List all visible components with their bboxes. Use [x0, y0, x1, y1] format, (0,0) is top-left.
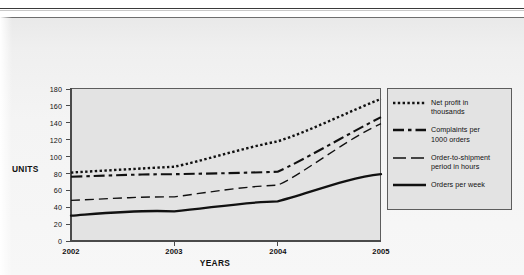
x-tick-label-2003: 2003 [154, 247, 194, 256]
y-axis-title: UNITS [12, 164, 39, 174]
y-tick-label-160: 160 [40, 102, 62, 111]
y-tick-label-80: 80 [40, 170, 62, 179]
legend-label-complaints: Complaints per 1000 orders [431, 125, 480, 143]
y-tick-label-60: 60 [40, 186, 62, 195]
legend-label-net-profit-line2: thousands [431, 107, 465, 116]
x-axis-title: YEARS [0, 258, 430, 268]
series-net-profit [71, 99, 381, 173]
y-tick-label-100: 100 [40, 153, 62, 162]
series-orders-per-week [71, 174, 381, 215]
legend-label-order-to-shipment-line1: Order-to-shipment [431, 153, 490, 162]
legend-label-net-profit: Net profit in thousands [431, 98, 468, 116]
line-chart-figure: 180 160 140 120 100 80 60 40 20 0 UNITS … [0, 0, 524, 275]
legend-swatch-dashed-icon [393, 153, 426, 165]
y-tick-label-40: 40 [40, 203, 62, 212]
series-complaints [71, 117, 381, 177]
legend-item-orders-per-week: Orders per week [393, 180, 507, 192]
x-tick-label-2002: 2002 [51, 247, 91, 256]
series-order-to-shipment [71, 124, 381, 201]
y-tick-label-20: 20 [40, 220, 62, 229]
legend-label-order-to-shipment-line2: period in hours [431, 162, 479, 171]
legend-label-order-to-shipment: Order-to-shipment period in hours [431, 153, 490, 171]
legend-swatch-dotted-icon [393, 98, 426, 110]
chart-legend: Net profit in thousands Complaints per 1… [387, 88, 512, 210]
legend-item-complaints: Complaints per 1000 orders [393, 125, 507, 143]
legend-label-orders-per-week: Orders per week [431, 180, 485, 189]
legend-label-complaints-line1: Complaints per [431, 125, 480, 134]
legend-swatch-solid-icon [393, 180, 426, 192]
y-tick-label-0: 0 [40, 237, 62, 246]
legend-item-order-to-shipment: Order-to-shipment period in hours [393, 153, 507, 171]
legend-swatch-dash-dot-icon [393, 125, 426, 137]
x-tick-label-2005: 2005 [361, 247, 401, 256]
legend-label-orders-per-week-line1: Orders per week [431, 180, 485, 189]
page-canvas: 180 160 140 120 100 80 60 40 20 0 UNITS … [0, 0, 524, 275]
y-tick-label-140: 140 [40, 119, 62, 128]
y-tick-label-180: 180 [40, 85, 62, 94]
legend-label-net-profit-line1: Net profit in [431, 98, 468, 107]
legend-item-net-profit: Net profit in thousands [393, 98, 507, 116]
y-tick-label-120: 120 [40, 136, 62, 145]
x-tick-label-2004: 2004 [258, 247, 298, 256]
legend-label-complaints-line2: 1000 orders [431, 135, 470, 144]
axes [66, 88, 381, 246]
